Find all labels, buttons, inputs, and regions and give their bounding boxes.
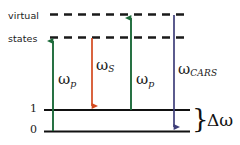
omega-sub-stokes: S xyxy=(108,64,114,74)
label-omega-stokes: ωS xyxy=(96,58,115,74)
label-omega-pump-1: ωp xyxy=(58,72,77,88)
label-virtual: virtual xyxy=(8,11,39,21)
label-states: states xyxy=(8,34,38,44)
label-delta-omega: Δω xyxy=(207,112,233,129)
omega-glyph-pump-1: ω xyxy=(58,70,70,88)
label-omega-pump-2: ωp xyxy=(136,72,155,88)
omega-glyph-stokes: ω xyxy=(96,56,108,74)
cars-energy-level-diagram: virtual states 1 0 ωp ωS ωp ωCARS } Δω xyxy=(0,0,240,145)
label-level-1: 1 xyxy=(30,103,37,114)
label-level-0: 0 xyxy=(30,124,37,135)
omega-sub-cars: CARS xyxy=(190,68,217,78)
omega-sub-pump-1: p xyxy=(70,78,76,89)
omega-glyph-cars: ω xyxy=(178,60,190,78)
omega-glyph-pump-2: ω xyxy=(136,70,148,88)
label-omega-cars: ωCARS xyxy=(178,62,217,78)
omega-sub-pump-2: p xyxy=(148,78,154,89)
